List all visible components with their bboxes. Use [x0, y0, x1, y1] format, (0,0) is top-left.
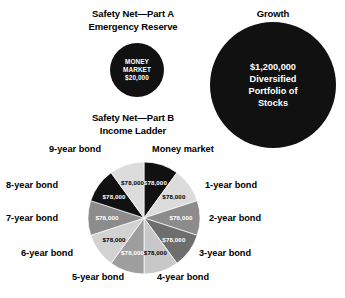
pie-slice-value: $78,000: [162, 236, 186, 243]
safety-net-part-b-heading-line2: Income Ladder: [53, 125, 213, 138]
infographic-canvas: Safety Net—Part A Emergency Reserve MONE…: [0, 0, 345, 298]
pie-slice-value: $78,000: [103, 193, 127, 200]
pie-slice-value: $78,000: [162, 193, 186, 200]
money-market-circle: MONEY MARKET $20,000: [110, 43, 164, 97]
growth-desc-line3: Stocks: [258, 97, 288, 109]
money-market-label-line1: MONEY: [125, 58, 149, 66]
growth-heading: Growth: [213, 8, 333, 21]
safety-net-part-a-heading-line1: Safety Net—Part A: [53, 8, 213, 21]
growth-amount: $1,200,000: [250, 61, 296, 73]
pie-slice-value: $78,000: [95, 214, 119, 221]
pie-slice-value: $78,000: [169, 214, 193, 221]
safety-net-part-b-heading: Safety Net—Part B Income Ladder: [53, 112, 213, 137]
safety-net-part-a-heading: Safety Net—Part A Emergency Reserve: [53, 8, 213, 33]
pie-category-label: 5-year bond: [72, 272, 124, 283]
pie-category-label: 8-year bond: [6, 180, 58, 191]
safety-net-part-a-heading-line2: Emergency Reserve: [53, 21, 213, 34]
pie-slice-value: $78,000: [103, 236, 127, 243]
money-market-label-line2: MARKET: [123, 66, 151, 74]
pie-category-label: 6-year bond: [21, 248, 73, 259]
growth-desc-line1: Diversified: [250, 73, 297, 85]
pie-category-label: Money market: [152, 144, 214, 155]
pie-slice-value: $78,000: [121, 179, 145, 186]
growth-circle: $1,200,000 Diversified Portfolio of Stoc…: [210, 22, 336, 148]
income-ladder-pie-chart: $78,000$78,000$78,000$78,000$78,000$78,0…: [0, 140, 345, 298]
pie-slice-value: $78,000: [121, 249, 145, 256]
money-market-amount: $20,000: [125, 74, 149, 82]
safety-net-part-b-heading-line1: Safety Net—Part B: [53, 112, 213, 125]
pie-category-label: 9-year bond: [49, 144, 101, 155]
pie-slice-value: $78,000: [144, 249, 168, 256]
pie-category-label: 1-year bond: [205, 180, 257, 191]
pie-category-label: 2-year bond: [209, 213, 261, 224]
pie-category-label: 3-year bond: [199, 248, 251, 259]
pie-slice-value: $78,000: [144, 179, 168, 186]
growth-heading-text: Growth: [213, 8, 333, 21]
pie-category-label: 7-year bond: [6, 213, 58, 224]
pie-category-label: 4-year bond: [157, 272, 209, 283]
growth-desc-line2: Portfolio of: [249, 85, 298, 97]
